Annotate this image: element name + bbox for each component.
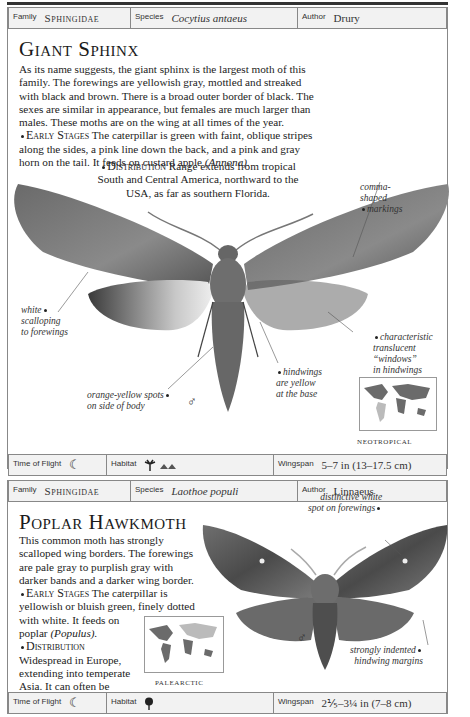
annotation-comma-markings: comma- shaped markings xyxy=(360,182,402,215)
annotation-windows: characteristic translucent “windows” in … xyxy=(373,332,433,376)
time-of-flight-label: Time of Flight xyxy=(13,697,61,706)
top-rule xyxy=(7,2,448,5)
family-cell: Family Sphingidae xyxy=(9,8,131,28)
family-value: Sphingidae xyxy=(45,485,100,497)
early-stages-heading: Early Stages xyxy=(26,128,89,142)
wingspan-value: 5–7 in (13–17.5 cm) xyxy=(322,459,412,471)
map-label: PALEARCTIC xyxy=(155,679,204,687)
author-cell: Author Drury xyxy=(298,8,446,28)
map-label: NEOTROPICAL xyxy=(357,438,412,446)
species-title: Poplar Hawkmoth xyxy=(19,510,187,535)
family-label: Family xyxy=(13,485,37,494)
distribution-heading: Distribution xyxy=(107,159,166,173)
early-stages-heading: Early Stages xyxy=(26,586,89,600)
species-value: Cocytius antaeus xyxy=(171,12,246,24)
habitat-cell: Habitat xyxy=(107,693,274,713)
taxonomy-bar: Family Sphingidae Species Cocytius antae… xyxy=(8,7,447,29)
wingspan-value: 2⅕–3¼ in (7–8 cm) xyxy=(322,697,412,710)
family-value: Sphingidae xyxy=(45,12,100,24)
male-symbol: ♂ xyxy=(187,394,197,410)
species-cell: Species Cocytius antaeus xyxy=(131,8,298,28)
species-label: Species xyxy=(135,485,163,494)
annotation-white-spot: distinctive white spot on forewings xyxy=(308,492,382,514)
time-of-flight-cell: Time of Flight ☾ xyxy=(9,693,107,713)
wingspan-label: Wingspan xyxy=(278,459,314,468)
author-label: Author xyxy=(302,12,326,21)
range-map-neotropical xyxy=(359,377,437,431)
annotation-white-scalloping: white scalloping to forewings xyxy=(21,305,68,338)
wingspan-label: Wingspan xyxy=(278,697,314,706)
moon-icon: ☾ xyxy=(69,695,81,711)
distribution-heading: Distribution xyxy=(26,639,85,653)
wingspan-cell: Wingspan 2⅕–3¼ in (7–8 cm) xyxy=(274,693,446,713)
annotation-orange-spots: orange-yellow spots on side of body xyxy=(87,390,171,412)
family-label: Family xyxy=(13,12,37,21)
species-cell: Species Laothoe populi xyxy=(131,481,298,501)
male-symbol: ♂ xyxy=(297,630,307,646)
species-value: Laothoe populi xyxy=(171,485,238,497)
deciduous-tree-icon xyxy=(144,697,154,710)
annotation-hindwings-yellow: hindwings are yellow at the base xyxy=(276,367,322,400)
entry-giant-sphinx: Family Sphingidae Species Cocytius antae… xyxy=(7,7,448,469)
time-of-flight-cell: Time of Flight ☾ xyxy=(9,455,107,475)
habitat-cell: Habitat xyxy=(107,455,274,475)
moon-icon: ☾ xyxy=(69,457,81,473)
mountains-icon xyxy=(160,461,176,469)
habitat-label: Habitat xyxy=(111,459,136,468)
info-bar: Time of Flight ☾ Habitat Wingspan 5–7 in… xyxy=(8,454,447,476)
description: As its name suggests, the giant sphinx i… xyxy=(19,63,319,169)
info-bar: Time of Flight ☾ Habitat Wingspan 2⅕–3¼ … xyxy=(8,692,447,714)
family-cell: Family Sphingidae xyxy=(9,481,131,501)
habitat-label: Habitat xyxy=(111,697,136,706)
species-label: Species xyxy=(135,12,163,21)
palm-tree-icon xyxy=(144,459,156,471)
species-title: Giant Sphinx xyxy=(19,37,139,62)
wingspan-cell: Wingspan 5–7 in (13–17.5 cm) xyxy=(274,455,446,475)
entry-poplar-hawkmoth: Family Sphingidae Species Laothoe populi… xyxy=(7,480,448,714)
author-value: Drury xyxy=(334,12,360,24)
time-of-flight-label: Time of Flight xyxy=(13,459,61,468)
world-map-icon xyxy=(360,378,436,430)
annotation-indented-margins: strongly indented hindwing margins xyxy=(350,645,423,667)
